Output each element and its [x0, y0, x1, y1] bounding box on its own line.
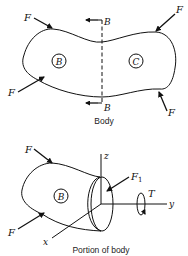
torque-label: T: [148, 188, 156, 199]
force-arrow-portion-left: [18, 213, 44, 229]
force-label-portion-top: F: [24, 144, 33, 155]
body-outline: [23, 29, 176, 97]
internal-force-subscript: 1: [138, 176, 142, 184]
force-label-top-left: F: [23, 12, 32, 23]
section-label-bottom: B: [103, 103, 111, 113]
internal-force-arrow: [107, 177, 129, 191]
force-arrow-left: [18, 77, 44, 92]
body-caption: Body: [94, 116, 114, 126]
region-b-label-portion: B: [57, 192, 65, 202]
body-figure: B B B C F F F F Body: [7, 4, 184, 126]
force-label-top-right: F: [175, 4, 184, 15]
section-label-top: B: [103, 17, 111, 27]
x-axis-label: x: [43, 237, 48, 247]
region-b-label: B: [55, 57, 63, 67]
region-c-label: C: [133, 57, 140, 67]
force-arrow-portion-top: [34, 149, 52, 163]
force-label-portion-left: F: [7, 227, 16, 238]
z-axis-label: z: [103, 151, 109, 161]
free-body-diagram: B B B C F F F F Body z y x B: [0, 0, 188, 256]
force-label-left: F: [7, 87, 16, 98]
force-arrow-bottom-right: [159, 92, 167, 111]
portion-caption: Portion of body: [72, 245, 130, 255]
force-label-bottom-right: F: [167, 107, 176, 118]
portion-figure: z y x B F F F1 T Portion of body: [7, 144, 175, 255]
force-arrow-top-left: [34, 18, 52, 28]
internal-force-label: F1: [130, 171, 142, 184]
force-arrow-top-right: [156, 14, 175, 31]
y-axis-label: y: [168, 199, 175, 209]
